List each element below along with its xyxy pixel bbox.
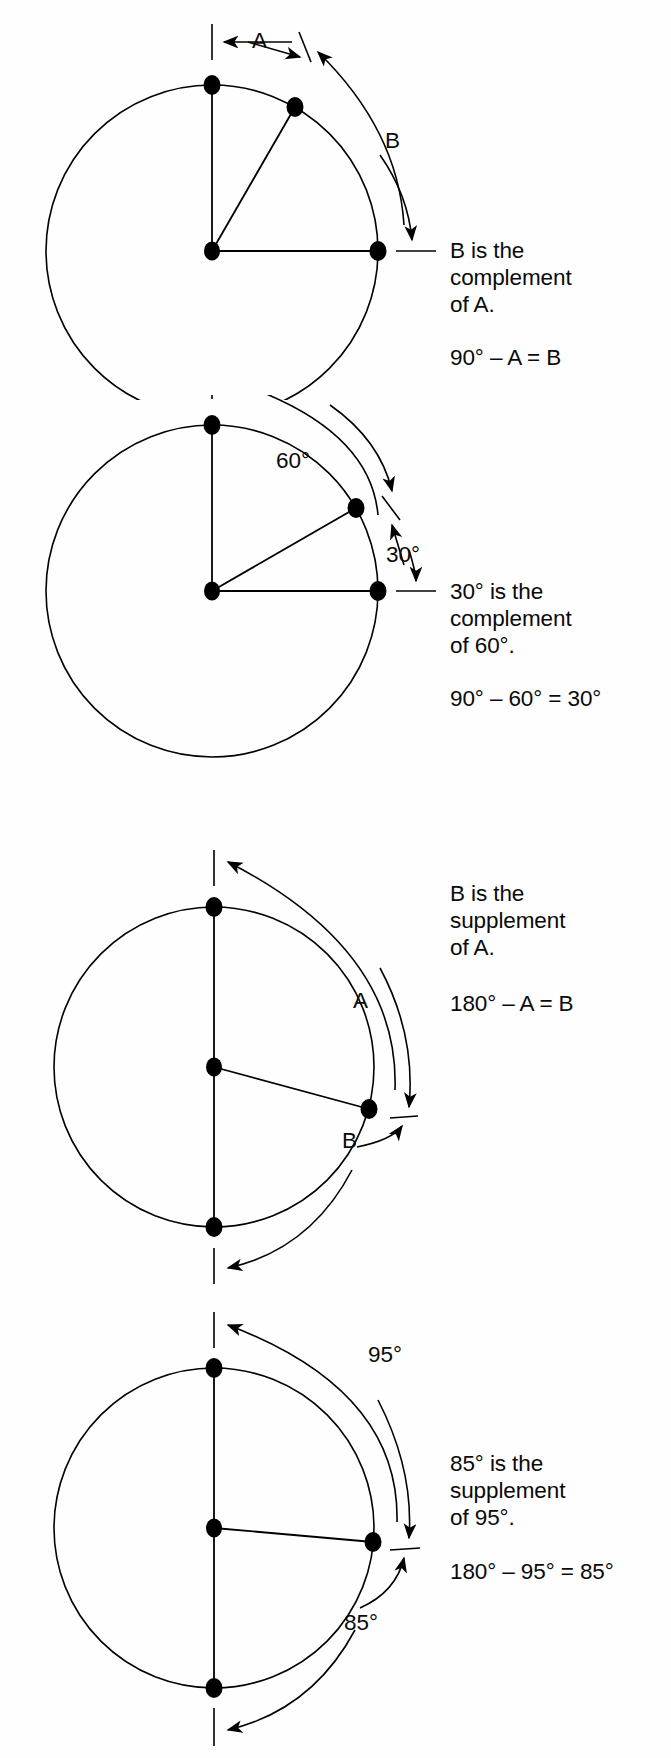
figure-complement-numeric: 60° 30° 30° is the complement of 60°. 90… (0, 395, 671, 810)
radius-oblique (212, 107, 295, 251)
point-top (204, 415, 221, 435)
point-center (204, 242, 220, 261)
supplement-general-drawing (0, 850, 671, 1290)
caption-text: B is the complement of A. (450, 237, 572, 318)
tick-ab-boundary (299, 32, 311, 62)
arc-b-lower (228, 1170, 352, 1268)
figure-supplement-numeric: 95° 85° 85° is the supplement of 95°. 18… (0, 1310, 671, 1758)
point-right (370, 241, 387, 261)
radius-oblique (212, 508, 356, 591)
tick-60-boundary (382, 496, 400, 520)
point-ray-end (361, 1099, 378, 1119)
arc-label-60: 60° (276, 448, 310, 474)
arc-label-a: A (252, 28, 267, 54)
point-center (206, 1519, 222, 1538)
arc-85-upper (360, 1558, 404, 1608)
arc-b-upper (357, 1126, 402, 1147)
caption-text: B is the supplement of A. (450, 880, 565, 961)
arc-label-30: 30° (386, 542, 420, 568)
radius-oblique (214, 1067, 369, 1109)
equation-text: 90° – A = B (450, 344, 561, 371)
tick-ab-boundary (390, 1116, 418, 1118)
figure-supplement-general: A B B is the supplement of A. 180° – A =… (0, 850, 671, 1290)
arc-60-tail (330, 405, 392, 491)
arc-85-lower (228, 1630, 355, 1730)
point-bottom (206, 1678, 223, 1698)
point-center (206, 1058, 222, 1077)
figure-complement-general: A B B is the complement of A. 90° – A = … (0, 0, 671, 400)
tick-ab-boundary (390, 1548, 420, 1550)
point-bottom (206, 1217, 223, 1237)
caption-text: 30° is the complement of 60°. (450, 578, 572, 659)
arc-label-85: 85° (344, 1610, 378, 1636)
arc-label-b: B (385, 128, 400, 154)
caption-text: 85° is the supplement of 95°. (450, 1450, 565, 1531)
arc-b-lower (380, 155, 412, 240)
point-top (206, 897, 223, 917)
point-ray-end (365, 1532, 382, 1552)
arc-a-upper (228, 862, 395, 1090)
point-ray-end (348, 498, 365, 518)
point-right (370, 581, 387, 601)
arc-95-lower (378, 1400, 410, 1538)
equation-text: 90° – 60° = 30° (450, 685, 601, 712)
point-top (206, 1358, 223, 1378)
figure-page: A B B is the complement of A. 90° – A = … (0, 0, 671, 1758)
equation-text: 180° – A = B (450, 990, 574, 1017)
radius-oblique (214, 1528, 373, 1542)
arc-label-b: B (342, 1128, 357, 1154)
arc-label-a: A (353, 988, 368, 1014)
point-center (204, 582, 220, 601)
point-top (204, 75, 221, 95)
arc-label-95: 95° (368, 1342, 402, 1368)
complement-general-drawing (0, 0, 671, 400)
equation-text: 180° – 95° = 85° (450, 1558, 614, 1585)
point-ray-end (287, 97, 304, 117)
supplement-numeric-drawing (0, 1310, 671, 1758)
